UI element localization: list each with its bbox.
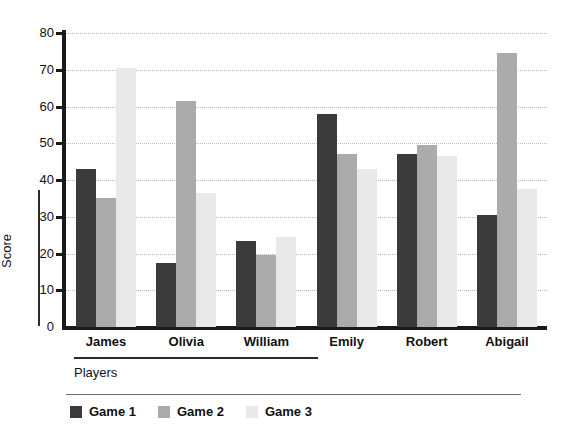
- y-tick-label: 10: [20, 283, 54, 296]
- y-tick-label: 80: [20, 26, 54, 39]
- y-tick-mark: [56, 179, 62, 182]
- bar: [437, 156, 457, 327]
- y-tick-mark: [56, 253, 62, 256]
- y-tick-label: 60: [20, 100, 54, 113]
- gridline: [66, 217, 547, 218]
- y-tick-mark: [56, 216, 62, 219]
- bar: [276, 237, 296, 327]
- legend-swatch-icon: [70, 406, 82, 418]
- legend: Game 1Game 2Game 3: [70, 404, 312, 419]
- bar-chart-figure: 01020304050607080 Score JamesOliviaWilli…: [0, 0, 584, 437]
- y-tick-label: 50: [20, 136, 54, 149]
- x-axis-title: Players: [74, 365, 117, 380]
- category-label: Robert: [406, 334, 448, 349]
- y-tick-mark: [56, 32, 62, 35]
- x-axis-title-rule: [74, 357, 318, 359]
- bar: [156, 263, 176, 327]
- legend-rule: [66, 394, 521, 395]
- gridline: [66, 70, 547, 71]
- gridline: [66, 180, 547, 181]
- y-axis-title: Score: [0, 188, 14, 268]
- y-tick-label: 70: [20, 63, 54, 76]
- y-tick-mark: [56, 106, 62, 109]
- gridline: [66, 254, 547, 255]
- bar: [317, 114, 337, 327]
- legend-label: Game 2: [177, 404, 224, 419]
- bar: [357, 169, 377, 327]
- y-tick-mark: [56, 289, 62, 292]
- bar: [176, 101, 196, 327]
- bar: [397, 154, 417, 327]
- gridline: [66, 33, 547, 34]
- category-label: James: [86, 334, 126, 349]
- legend-item[interactable]: Game 1: [70, 404, 136, 419]
- legend-item[interactable]: Game 2: [158, 404, 224, 419]
- y-tick-label: 20: [20, 247, 54, 260]
- y-axis-tick-labels: 01020304050607080: [12, 0, 54, 437]
- legend-item[interactable]: Game 3: [246, 404, 312, 419]
- legend-label: Game 3: [265, 404, 312, 419]
- legend-swatch-icon: [158, 406, 170, 418]
- bar: [517, 189, 537, 327]
- y-tick-label: 30: [20, 210, 54, 223]
- category-label: William: [244, 334, 289, 349]
- bar: [116, 68, 136, 327]
- legend-swatch-icon: [246, 406, 258, 418]
- bar: [196, 193, 216, 327]
- y-axis-title-rule: [38, 190, 40, 326]
- y-tick-mark: [56, 142, 62, 145]
- bar: [477, 215, 497, 327]
- y-tick-label: 0: [20, 320, 54, 333]
- gridline: [66, 290, 547, 291]
- gridline: [66, 107, 547, 108]
- y-tick-label: 40: [20, 173, 54, 186]
- legend-label: Game 1: [89, 404, 136, 419]
- plot-area: [66, 33, 547, 327]
- bar: [497, 53, 517, 327]
- category-label: Olivia: [169, 334, 204, 349]
- gridline: [66, 143, 547, 144]
- bar: [96, 198, 116, 327]
- category-label: Abigail: [485, 334, 528, 349]
- bar: [417, 145, 437, 327]
- bar: [76, 169, 96, 327]
- bar: [236, 241, 256, 327]
- y-tick-mark: [56, 69, 62, 72]
- bar: [256, 255, 276, 327]
- bar: [337, 154, 357, 327]
- category-label: Emily: [329, 334, 364, 349]
